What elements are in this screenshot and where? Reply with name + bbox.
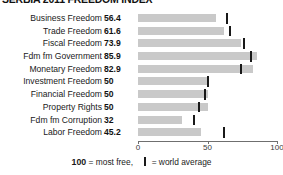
value-label: 45.2	[104, 126, 134, 139]
world-average-tick-icon	[144, 157, 146, 166]
value-label: 56.4	[104, 12, 134, 25]
value-label: 61.6	[104, 25, 134, 38]
value-bar	[138, 27, 224, 35]
world-average-marker	[226, 13, 228, 24]
value-label: 32	[104, 114, 134, 127]
category-label: Investment Freedom	[23, 75, 102, 88]
value-bar	[138, 103, 208, 111]
value-bar	[138, 52, 257, 60]
category-label: Fdm fm Government	[23, 50, 102, 63]
chart-row: Business Freedom56.4	[0, 12, 283, 25]
world-average-marker	[193, 115, 195, 126]
value-label: 82.9	[104, 63, 134, 76]
legend-most-free-value: 100	[72, 157, 87, 167]
chart-row: Fiscal Freedom73.9	[0, 37, 283, 50]
legend-most-free-label: = most free,	[89, 157, 133, 167]
chart-row: Monetary Freedom82.9	[0, 63, 283, 76]
value-bar	[138, 116, 182, 124]
chart-row: Property Rights50	[0, 101, 283, 114]
world-average-marker	[207, 76, 209, 87]
world-average-marker	[240, 64, 242, 75]
chart-title-clipped: SERBIA 2011 FREEDOM INDEX	[0, 0, 283, 7]
axis-tick-label: 50	[196, 143, 220, 152]
legend-world-average-label: = world average	[152, 157, 212, 167]
value-label: 85.9	[104, 50, 134, 63]
chart-row: Fdm fm Corruption32	[0, 114, 283, 127]
chart-row: Trade Freedom61.6	[0, 25, 283, 38]
axis-tick-label: 0	[126, 143, 150, 152]
category-label: Monetary Freedom	[29, 63, 102, 76]
category-label: Fdm fm Corruption	[30, 114, 102, 127]
freedom-index-chart: SERBIA 2011 FREEDOM INDEX Business Freed…	[0, 0, 283, 175]
value-label: 50	[104, 101, 134, 114]
value-label: 50	[104, 88, 134, 101]
world-average-marker	[204, 89, 206, 100]
world-average-marker	[229, 26, 231, 37]
category-label: Labor Freedom	[43, 126, 102, 139]
value-bar	[138, 65, 253, 73]
page-title: SERBIA 2011 FREEDOM INDEX	[2, 0, 152, 5]
category-label: Property Rights	[43, 101, 102, 114]
world-average-marker	[243, 38, 245, 49]
chart-legend: 100 = most free, = world average	[0, 157, 283, 167]
world-average-marker	[198, 102, 200, 113]
world-average-marker	[250, 51, 252, 62]
chart-rows: Business Freedom56.4Trade Freedom61.6Fis…	[0, 12, 283, 139]
category-label: Fiscal Freedom	[43, 37, 102, 50]
value-bar	[138, 14, 216, 22]
category-label: Financial Freedom	[31, 88, 102, 101]
chart-row: Financial Freedom50	[0, 88, 283, 101]
chart-row: Fdm fm Government85.9	[0, 50, 283, 63]
value-bar	[138, 39, 241, 47]
chart-row: Investment Freedom50	[0, 75, 283, 88]
value-bar	[138, 77, 208, 85]
world-average-marker	[223, 127, 225, 138]
value-label: 73.9	[104, 37, 134, 50]
chart-row: Labor Freedom45.2	[0, 126, 283, 139]
value-bar	[138, 128, 201, 136]
value-bar	[138, 90, 208, 98]
value-label: 50	[104, 75, 134, 88]
axis-tick-label: 100	[265, 143, 283, 152]
category-label: Trade Freedom	[43, 25, 102, 38]
category-label: Business Freedom	[30, 12, 102, 25]
